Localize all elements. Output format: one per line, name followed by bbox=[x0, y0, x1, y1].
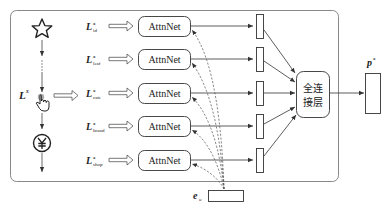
hollow-arrow bbox=[109, 88, 133, 98]
svg-text:AttnNet: AttnNet bbox=[148, 121, 180, 132]
user-embedding-links bbox=[192, 30, 224, 189]
svg-text:x: x bbox=[92, 155, 96, 160]
svg-text:L: L bbox=[85, 21, 92, 32]
feature-vector bbox=[257, 82, 264, 106]
svg-text:x: x bbox=[92, 88, 96, 93]
row-shop: L x shop AttnNet bbox=[85, 149, 264, 173]
ellipsis-dots bbox=[41, 60, 42, 70]
hollow-arrow bbox=[109, 54, 133, 64]
svg-text:x: x bbox=[92, 54, 96, 59]
feature-vector bbox=[257, 15, 264, 39]
row-cate: L x cate AttnNet bbox=[85, 82, 264, 106]
svg-text:p: p bbox=[366, 57, 372, 68]
feature-vector bbox=[257, 115, 264, 139]
svg-text:u: u bbox=[199, 197, 202, 202]
fully-connected-layer: 全连 接层 bbox=[297, 72, 330, 118]
fusion-inputs bbox=[264, 30, 296, 156]
svg-text:全连: 全连 bbox=[303, 82, 323, 94]
row-id: L x id AttnNet bbox=[85, 15, 264, 39]
output-label: p x bbox=[366, 56, 376, 68]
hollow-arrow bbox=[109, 21, 133, 31]
svg-text:L: L bbox=[85, 155, 92, 166]
user-embedding-label: e u bbox=[193, 190, 202, 202]
svg-text:x: x bbox=[92, 121, 96, 126]
svg-text:leaf: leaf bbox=[93, 61, 101, 66]
feature-vector bbox=[257, 48, 264, 72]
svg-text:AttnNet: AttnNet bbox=[148, 21, 180, 32]
row-leaf: L x leaf AttnNet bbox=[85, 48, 264, 72]
svg-text:L: L bbox=[85, 54, 92, 65]
svg-text:x: x bbox=[92, 21, 96, 26]
svg-text:AttnNet: AttnNet bbox=[148, 54, 180, 65]
hollow-arrow bbox=[54, 91, 78, 101]
click-hand-icon bbox=[36, 94, 49, 111]
svg-text:cate: cate bbox=[93, 95, 102, 100]
input-sequence-label: L x bbox=[18, 88, 29, 101]
svg-text:e: e bbox=[193, 190, 198, 201]
feature-vector bbox=[257, 149, 264, 173]
svg-text:接层: 接层 bbox=[303, 96, 323, 108]
svg-text:L: L bbox=[85, 121, 92, 132]
svg-text:L: L bbox=[85, 88, 92, 99]
svg-text:AttnNet: AttnNet bbox=[148, 88, 180, 99]
svg-text:id: id bbox=[93, 28, 97, 33]
star-icon bbox=[32, 19, 52, 37]
svg-text:x: x bbox=[25, 88, 29, 94]
user-embedding-vector bbox=[209, 191, 244, 202]
svg-text:L: L bbox=[18, 89, 26, 101]
svg-text:shop: shop bbox=[93, 162, 103, 167]
row-brand: L x brand AttnNet bbox=[85, 115, 264, 139]
attention-architecture-diagram: L x L x id AttnNet L x leaf AttnNet L x … bbox=[0, 0, 385, 211]
hollow-arrow bbox=[109, 155, 133, 165]
output-vector bbox=[366, 74, 381, 114]
svg-text:x: x bbox=[372, 56, 376, 61]
svg-text:brand: brand bbox=[93, 128, 105, 133]
hollow-arrow bbox=[109, 121, 133, 131]
yen-coin-icon bbox=[34, 135, 51, 152]
svg-text:AttnNet: AttnNet bbox=[148, 155, 180, 166]
